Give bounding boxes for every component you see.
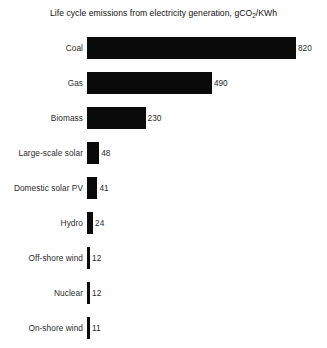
bar-rect [87, 177, 97, 199]
bar-row: Gas490 [0, 72, 327, 94]
chart-title-prefix: Life cycle emissions from electricity ge… [50, 8, 252, 18]
bar-rect [87, 282, 90, 304]
bar-value-label: 230 [148, 107, 162, 129]
bar-rect [87, 72, 212, 94]
bar-track: 48 [87, 142, 110, 164]
bar-track: 820 [87, 37, 312, 59]
bar-value-label: 490 [214, 72, 228, 94]
bar-category-label: Domestic solar PV [14, 177, 83, 199]
chart-title-subscript: 2 [252, 12, 256, 19]
chart-title: Life cycle emissions from electricity ge… [0, 8, 327, 19]
bar-rect [87, 247, 90, 269]
bar-category-label: Off-shore wind [29, 247, 84, 269]
bar-category-label: Coal [66, 37, 83, 59]
plot-area: Coal820Gas490Biomass230Large-scale solar… [0, 33, 327, 348]
bar-rect [87, 107, 146, 129]
bar-rect [87, 317, 90, 339]
bar-track: 41 [87, 177, 109, 199]
bar-value-label: 24 [95, 212, 104, 234]
bar-category-label: Nuclear [54, 282, 83, 304]
bar-row: On-shore wind11 [0, 317, 327, 339]
bar-row: Nuclear12 [0, 282, 327, 304]
bar-track: 230 [87, 107, 161, 129]
chart-title-suffix: /KWh [256, 8, 277, 18]
bar-rect [87, 142, 99, 164]
bar-category-label: Large-scale solar [19, 142, 84, 164]
bar-category-label: On-shore wind [28, 317, 83, 339]
bar-track: 11 [87, 317, 101, 339]
bar-row: Hydro24 [0, 212, 327, 234]
bar-value-label: 12 [92, 282, 101, 304]
bar-track: 490 [87, 72, 228, 94]
bar-track: 12 [87, 282, 101, 304]
bar-row: Large-scale solar48 [0, 142, 327, 164]
bar-value-label: 48 [101, 142, 110, 164]
bar-row: Biomass230 [0, 107, 327, 129]
bar-category-label: Biomass [51, 107, 83, 129]
bar-row: Off-shore wind12 [0, 247, 327, 269]
bar-track: 12 [87, 247, 101, 269]
bar-category-label: Gas [68, 72, 83, 94]
bar-row: Domestic solar PV41 [0, 177, 327, 199]
bar-value-label: 12 [92, 247, 101, 269]
bar-value-label: 11 [92, 317, 101, 339]
bar-category-label: Hydro [61, 212, 83, 234]
bar-chart-figure: Life cycle emissions from electricity ge… [0, 0, 327, 348]
bar-value-label: 820 [298, 37, 312, 59]
bar-rect [87, 37, 296, 59]
bar-row: Coal820 [0, 37, 327, 59]
bar-rect [87, 212, 93, 234]
bar-value-label: 41 [99, 177, 108, 199]
bar-track: 24 [87, 212, 104, 234]
